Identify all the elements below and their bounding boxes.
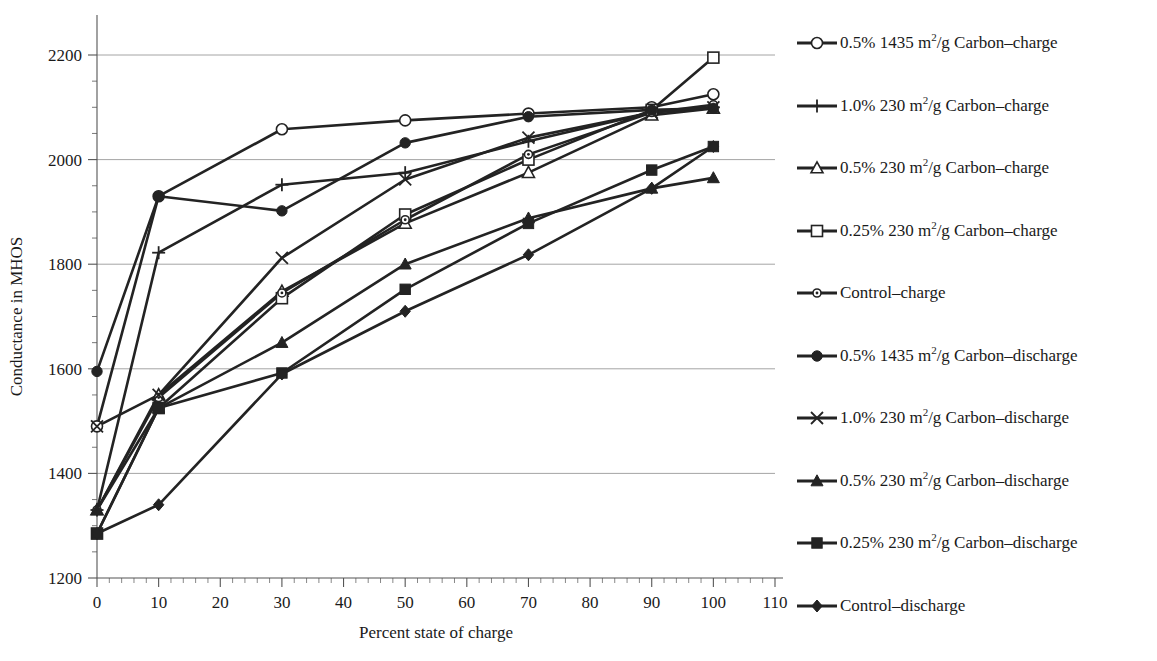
marker-filled-circle bbox=[812, 350, 822, 360]
legend-item-label: 1.0% 230 m2/g Carbon–charge bbox=[840, 96, 1049, 116]
legend-item[interactable]: 0.25% 230 m2/g Carbon–charge bbox=[795, 220, 1058, 242]
legend-item-label: 0.5% 1435 m2/g Carbon–discharge bbox=[840, 346, 1078, 366]
marker-filled-circle bbox=[153, 191, 163, 201]
legend-item-label: 0.25% 230 m2/g Carbon–discharge bbox=[840, 533, 1078, 553]
legend-item-label: 0.5% 230 m2/g Carbon–charge bbox=[840, 158, 1049, 178]
legend-item[interactable]: 0.5% 230 m2/g Carbon–discharge bbox=[795, 470, 1069, 492]
marker-open-circle bbox=[276, 124, 287, 135]
legend-marker-plus bbox=[795, 96, 839, 116]
marker-filled-diamond bbox=[523, 249, 533, 261]
chart-legend: 0.5% 1435 m2/g Carbon–charge1.0% 230 m2/… bbox=[795, 32, 1155, 632]
marker-filled-circle bbox=[277, 206, 287, 216]
marker-open-circle bbox=[400, 115, 411, 126]
legend-item-label: 1.0% 230 m2/g Carbon–discharge bbox=[840, 408, 1069, 428]
y-tick-label: 1800 bbox=[48, 255, 82, 274]
marker-small-open-circle bbox=[278, 289, 286, 297]
plot-area: 1200140016001800200022000102030405060708… bbox=[0, 0, 800, 661]
x-tick-label: 0 bbox=[93, 593, 102, 612]
x-tick-label: 30 bbox=[273, 593, 290, 612]
legend-item-label: Control–charge bbox=[840, 283, 945, 303]
marker-filled-square bbox=[523, 218, 533, 228]
marker-plus bbox=[275, 178, 288, 191]
legend-item[interactable]: Control–discharge bbox=[795, 595, 965, 617]
legend-item[interactable]: Control–charge bbox=[795, 282, 945, 304]
legend-item-label: Control–discharge bbox=[840, 596, 965, 616]
marker-filled-circle bbox=[92, 366, 102, 376]
legend-item[interactable]: 1.0% 230 m2/g Carbon–discharge bbox=[795, 407, 1069, 429]
legend-item[interactable]: 0.5% 1435 m2/g Carbon–discharge bbox=[795, 345, 1078, 367]
marker-open-circle bbox=[708, 89, 719, 100]
marker-plus bbox=[152, 246, 165, 259]
marker-small-open-circle bbox=[401, 216, 409, 224]
chart-figure: 1200140016001800200022000102030405060708… bbox=[0, 0, 1157, 661]
legend-item[interactable]: 0.25% 230 m2/g Carbon–discharge bbox=[795, 532, 1078, 554]
y-tick-label: 1400 bbox=[48, 464, 82, 483]
y-tick-label: 2200 bbox=[48, 46, 82, 65]
series-line bbox=[97, 147, 713, 534]
x-tick-label: 20 bbox=[212, 593, 229, 612]
marker-filled-diamond bbox=[400, 305, 410, 317]
marker-filled-square bbox=[153, 403, 163, 413]
legend-item[interactable]: 1.0% 230 m2/g Carbon–charge bbox=[795, 95, 1049, 117]
legend-marker-open-circle bbox=[795, 33, 839, 53]
y-tick-label: 1600 bbox=[48, 360, 82, 379]
x-axis-title: Percent state of charge bbox=[359, 623, 513, 642]
y-tick-label: 1200 bbox=[48, 569, 82, 588]
marker-x-mark bbox=[276, 252, 288, 264]
marker-open-square bbox=[812, 225, 823, 236]
marker-open-circle bbox=[812, 38, 823, 49]
marker-filled-square bbox=[400, 284, 410, 294]
legend-marker-open-square bbox=[795, 221, 839, 241]
x-tick-label: 110 bbox=[763, 593, 788, 612]
marker-open-square bbox=[708, 52, 719, 63]
x-tick-label: 70 bbox=[520, 593, 537, 612]
legend-marker-open-triangle bbox=[795, 158, 839, 178]
legend-item[interactable]: 0.5% 1435 m2/g Carbon–charge bbox=[795, 32, 1058, 54]
legend-item-label: 0.5% 1435 m2/g Carbon–charge bbox=[840, 33, 1058, 53]
legend-item-label: 0.5% 230 m2/g Carbon–discharge bbox=[840, 471, 1069, 491]
legend-marker-filled-square bbox=[795, 533, 839, 553]
legend-marker-x-mark bbox=[795, 408, 839, 428]
y-tick-label: 2000 bbox=[48, 151, 82, 170]
x-tick-label: 60 bbox=[458, 593, 475, 612]
legend-item[interactable]: 0.5% 230 m2/g Carbon–charge bbox=[795, 157, 1049, 179]
legend-marker-filled-circle bbox=[795, 346, 839, 366]
marker-filled-circle bbox=[523, 112, 533, 122]
marker-filled-triangle bbox=[276, 336, 288, 347]
y-axis-title: Conductance in MHOS bbox=[7, 237, 26, 397]
legend-item-label: 0.25% 230 m2/g Carbon–charge bbox=[840, 221, 1058, 241]
legend-marker-filled-diamond bbox=[795, 596, 839, 616]
marker-filled-square bbox=[647, 165, 657, 175]
marker-plus bbox=[811, 99, 824, 112]
marker-small-open-circle bbox=[524, 150, 532, 158]
marker-filled-square bbox=[812, 538, 822, 548]
legend-marker-filled-triangle bbox=[795, 471, 839, 491]
marker-filled-triangle bbox=[707, 172, 719, 183]
x-tick-label: 80 bbox=[582, 593, 599, 612]
x-tick-label: 100 bbox=[701, 593, 727, 612]
x-tick-label: 90 bbox=[643, 593, 660, 612]
marker-small-open-circle bbox=[813, 289, 821, 297]
marker-filled-circle bbox=[400, 138, 410, 148]
legend-marker-small-open-circle bbox=[795, 283, 839, 303]
marker-filled-diamond bbox=[812, 600, 822, 612]
x-tick-label: 50 bbox=[397, 593, 414, 612]
x-tick-label: 40 bbox=[335, 593, 352, 612]
x-tick-label: 10 bbox=[150, 593, 167, 612]
